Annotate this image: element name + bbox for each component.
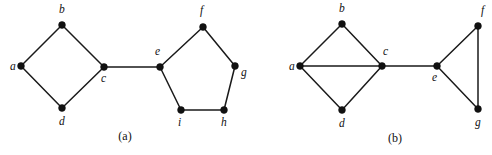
- vertex-a: [18, 63, 25, 70]
- vertex-b: [59, 22, 66, 29]
- vertex-label-c: c: [383, 45, 388, 57]
- caption-panel-a: (a): [118, 129, 131, 143]
- graph-figure: abcdefghi(a) abcdefg(b): [0, 0, 492, 155]
- vertex-g: [232, 63, 239, 70]
- edge-d-c: [342, 66, 382, 110]
- vertex-b: [339, 21, 346, 28]
- edge-e-f: [437, 26, 478, 66]
- vertex-d: [59, 105, 66, 112]
- caption-panel-b: (b): [388, 131, 402, 145]
- edge-e-g: [437, 66, 478, 109]
- panel-b: abcdefg(b): [289, 2, 486, 145]
- vertex-f: [200, 24, 207, 31]
- edge-a-b: [21, 25, 62, 66]
- edge-d-c: [62, 67, 104, 108]
- vertex-label-g: g: [241, 66, 247, 79]
- edge-g-h: [224, 66, 235, 110]
- vertex-label-e: e: [432, 71, 437, 83]
- vertex-label-c: c: [101, 72, 106, 84]
- vertex-label-g: g: [475, 116, 481, 129]
- vertex-i: [178, 107, 185, 114]
- edge-a-d: [21, 66, 62, 108]
- vertex-g: [475, 106, 482, 113]
- edge-a-b: [300, 24, 342, 66]
- vertex-label-i: i: [178, 116, 181, 128]
- edge-e-f: [160, 27, 203, 67]
- panel-a: abcdefghi(a): [10, 3, 247, 143]
- edge-b-c: [342, 24, 382, 66]
- vertex-label-f: f: [481, 4, 486, 17]
- graph-canvas: abcdefghi(a) abcdefg(b): [0, 0, 492, 155]
- vertex-label-d: d: [339, 117, 345, 129]
- vertex-e: [434, 63, 441, 70]
- vertex-c: [101, 64, 108, 71]
- vertex-label-h: h: [221, 116, 227, 128]
- vertex-a: [297, 63, 304, 70]
- vertex-c: [379, 63, 386, 70]
- vertex-d: [339, 107, 346, 114]
- vertex-e: [157, 64, 164, 71]
- vertex-label-a: a: [289, 60, 295, 72]
- vertex-label-a: a: [10, 60, 16, 72]
- vertex-label-b: b: [59, 3, 65, 15]
- edge-a-d: [300, 66, 342, 110]
- vertex-label-f: f: [200, 4, 205, 17]
- vertex-label-b: b: [339, 2, 345, 14]
- edge-f-g: [203, 27, 235, 66]
- vertex-label-d: d: [59, 115, 65, 127]
- edge-b-c: [62, 25, 104, 67]
- edge-i-e: [160, 67, 181, 110]
- vertex-f: [475, 23, 482, 30]
- vertex-h: [221, 107, 228, 114]
- vertex-label-e: e: [155, 45, 160, 57]
